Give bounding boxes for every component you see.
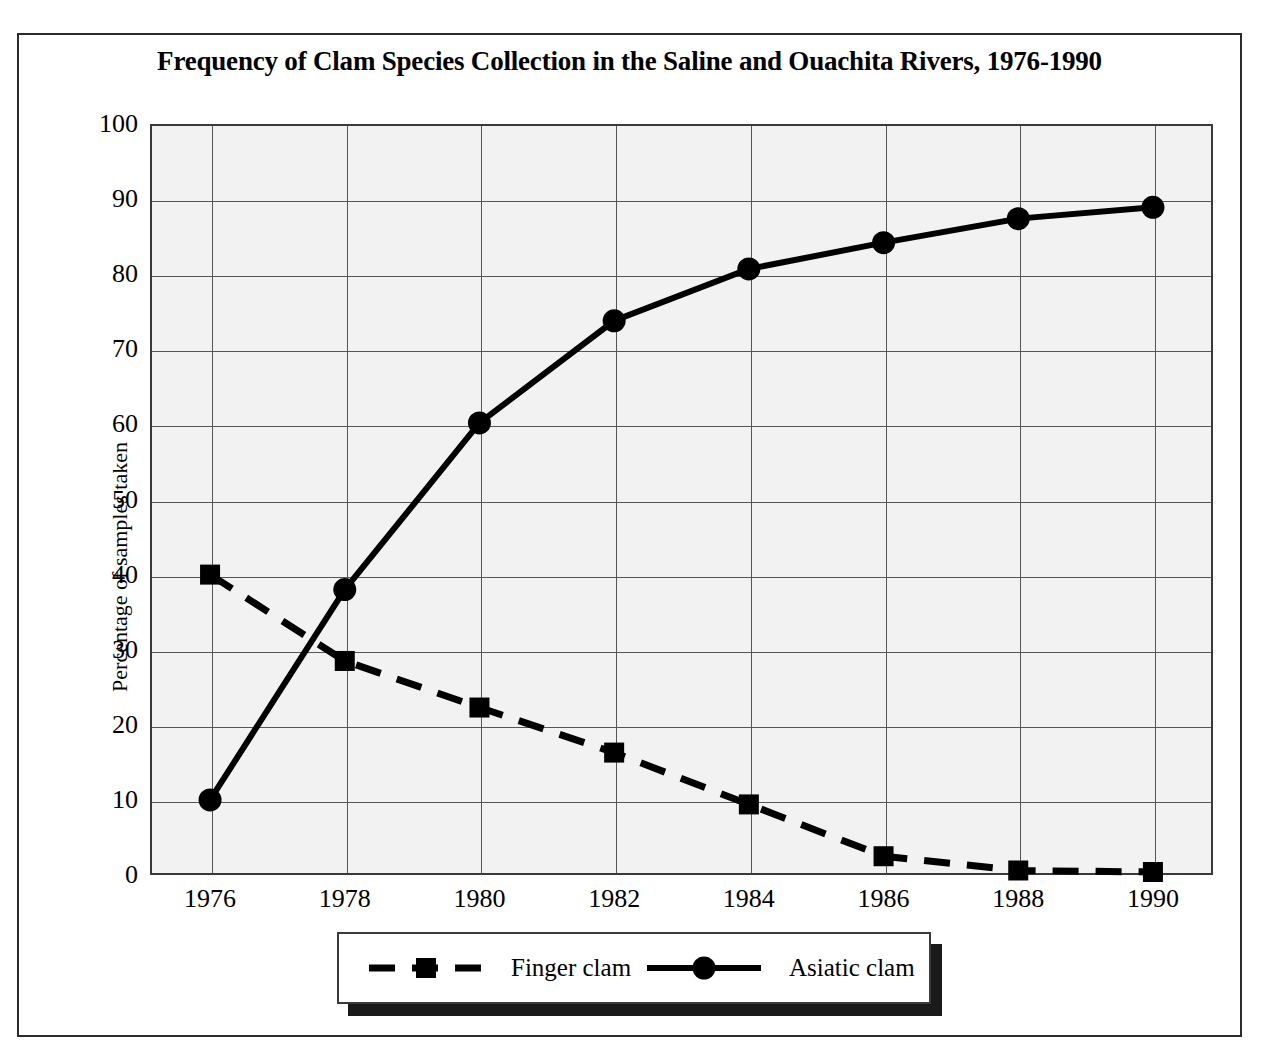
data-point-asiatic-clam-1988 [1007,207,1030,230]
data-point-finger-clam-1978 [335,651,355,671]
legend-sample-circle-icon [645,953,763,983]
y-axis-label-wrapper: Percentage of samples taken [80,124,81,875]
data-point-finger-clam-1986 [874,846,894,866]
legend-sample-square-icon [367,953,485,983]
data-point-finger-clam-1988 [1008,860,1028,880]
y-tick-0: 0 [58,862,138,888]
x-tick-1976: 1976 [155,884,265,914]
x-tick-1986: 1986 [829,884,939,914]
x-axis-tick-labels: 19761978198019821984198619881990 [150,884,1213,924]
legend-marker-circle [693,957,716,980]
data-point-asiatic-clam-1980 [468,411,491,434]
data-point-finger-clam-1982 [604,743,624,763]
series-finger-clam [200,565,1163,882]
legend: Finger clamAsiatic clam [337,932,931,1004]
x-tick-1988: 1988 [963,884,1073,914]
data-point-finger-clam-1990 [1143,862,1163,882]
legend-label: Asiatic clam [789,954,915,982]
data-point-asiatic-clam-1982 [603,309,626,332]
series-line-0 [210,575,1153,872]
data-point-asiatic-clam-1990 [1141,196,1164,219]
series-line-1 [210,207,1153,800]
data-point-asiatic-clam-1986 [872,231,895,254]
data-point-finger-clam-1984 [739,794,759,814]
chart-page: Frequency of Clam Species Collection in … [0,0,1271,1064]
series-layer [150,124,1213,875]
page-title: Frequency of Clam Species Collection in … [17,46,1242,77]
series-asiatic-clam [199,196,1165,812]
x-tick-1980: 1980 [424,884,534,914]
y-axis-label: Percentage of samples taken [107,337,133,797]
legend-item-finger-clam[interactable]: Finger clam [367,934,631,1002]
y-tick-80: 80 [58,261,138,287]
data-point-asiatic-clam-1984 [737,257,760,280]
x-tick-1990: 1990 [1098,884,1208,914]
data-point-asiatic-clam-1976 [199,788,222,811]
data-point-finger-clam-1976 [200,565,220,585]
x-tick-1982: 1982 [559,884,669,914]
x-tick-1978: 1978 [290,884,400,914]
legend-label: Finger clam [511,954,631,982]
legend-item-asiatic-clam[interactable]: Asiatic clam [645,934,915,1002]
data-point-finger-clam-1980 [469,698,489,718]
x-tick-1984: 1984 [694,884,804,914]
y-tick-100: 100 [58,111,138,137]
legend-marker-square [416,958,436,978]
y-tick-90: 90 [58,186,138,212]
data-point-asiatic-clam-1978 [333,578,356,601]
